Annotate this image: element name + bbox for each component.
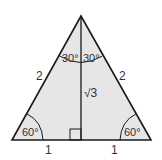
triangle-diagram: 30° 30° 2 2 √3 60° 60° 1 1 [0, 0, 162, 160]
base-right-angle-label: 60° [124, 126, 141, 138]
apex-left-angle-label: 30° [62, 52, 79, 64]
left-side-label: 2 [36, 69, 43, 83]
base-left-label: 1 [45, 143, 52, 157]
altitude-label: √3 [84, 86, 98, 100]
base-right-label: 1 [111, 143, 118, 157]
base-left-angle-label: 60° [22, 126, 39, 138]
apex-right-angle-label: 30° [83, 52, 100, 64]
right-side-label: 2 [119, 69, 126, 83]
